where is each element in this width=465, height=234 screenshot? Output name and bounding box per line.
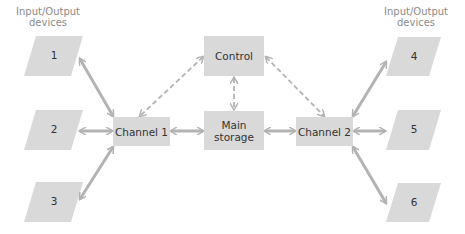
device-5-label: 5 bbox=[404, 123, 424, 135]
right-io-heading: Input/Output devices bbox=[378, 6, 454, 28]
device-1-label: 1 bbox=[44, 49, 64, 61]
channel-1-box: Channel 1 bbox=[113, 117, 170, 146]
arrow-device3-channel1 bbox=[80, 147, 113, 199]
dashed-arrow-control-channel1 bbox=[140, 57, 203, 116]
arrow-device1-channel1 bbox=[80, 59, 113, 116]
dashed-arrow-control-channel2 bbox=[266, 57, 324, 116]
arrow-channel2-device6 bbox=[353, 147, 386, 203]
diagram-canvas: Input/Output devices Input/Output device… bbox=[0, 0, 465, 234]
device-2-label: 2 bbox=[44, 123, 64, 135]
control-box: Control bbox=[204, 36, 264, 76]
main-storage-box: Main storage bbox=[204, 111, 264, 150]
left-io-heading: Input/Output devices bbox=[10, 6, 86, 28]
arrow-channel2-device4 bbox=[353, 62, 386, 116]
device-3-label: 3 bbox=[44, 195, 64, 207]
channel-2-box: Channel 2 bbox=[296, 117, 353, 146]
device-4-label: 4 bbox=[404, 50, 424, 62]
device-6-label: 6 bbox=[404, 196, 424, 208]
